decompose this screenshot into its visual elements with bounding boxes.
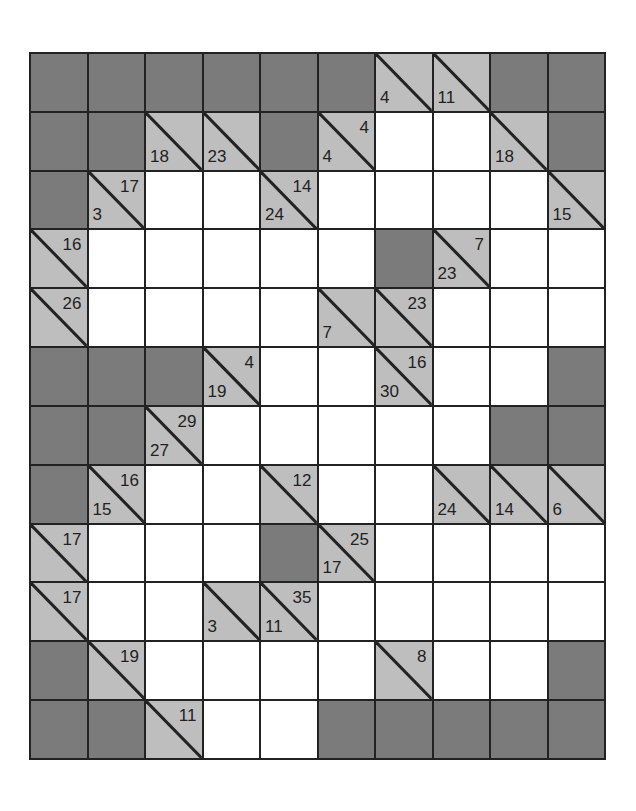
across-sum: 8 [417,648,426,665]
block-cell [89,348,145,405]
entry-cell[interactable] [549,525,605,582]
block-cell [31,407,87,464]
entry-cell[interactable] [319,642,375,699]
entry-cell[interactable] [89,583,145,640]
entry-cell[interactable] [491,583,547,640]
entry-cell[interactable] [434,583,490,640]
clue-cell: 19 [89,642,145,699]
entry-cell[interactable] [261,348,317,405]
clue-cell: 23 [376,289,432,346]
clue-cell: 24 [434,466,490,523]
entry-cell[interactable] [434,289,490,346]
clue-cell: 2517 [319,525,375,582]
entry-cell[interactable] [204,230,260,287]
entry-cell[interactable] [146,642,202,699]
entry-cell[interactable] [204,172,260,229]
entry-cell[interactable] [261,642,317,699]
entry-cell[interactable] [319,230,375,287]
entry-cell[interactable] [261,230,317,287]
clue-cell: 15 [549,172,605,229]
clue-cell: 7 [319,289,375,346]
entry-cell[interactable] [434,407,490,464]
entry-cell[interactable] [204,642,260,699]
entry-cell[interactable] [146,172,202,229]
entry-cell[interactable] [376,466,432,523]
entry-cell[interactable] [319,583,375,640]
block-cell [31,701,87,758]
entry-cell[interactable] [549,230,605,287]
clue-cell: 2927 [146,407,202,464]
block-cell [31,466,87,523]
entry-cell[interactable] [491,348,547,405]
across-sum: 11 [179,707,197,724]
across-sum: 29 [178,413,197,430]
entry-cell[interactable] [204,407,260,464]
entry-cell[interactable] [204,701,260,758]
across-sum: 16 [63,236,82,253]
entry-cell[interactable] [89,289,145,346]
block-cell [261,54,317,111]
block-cell [319,54,375,111]
entry-cell[interactable] [89,230,145,287]
across-sum: 19 [120,648,139,665]
entry-cell[interactable] [319,172,375,229]
entry-cell[interactable] [376,113,432,170]
entry-cell[interactable] [204,289,260,346]
entry-cell[interactable] [204,525,260,582]
down-sum: 14 [495,501,514,518]
block-cell [549,407,605,464]
down-sum: 19 [208,383,227,400]
block-cell [491,701,547,758]
block-cell [261,525,317,582]
across-sum: 7 [475,236,484,253]
entry-cell[interactable] [319,348,375,405]
entry-cell[interactable] [319,466,375,523]
across-sum: 17 [63,531,82,548]
entry-cell[interactable] [376,407,432,464]
block-cell [89,701,145,758]
entry-cell[interactable] [491,172,547,229]
entry-cell[interactable] [434,642,490,699]
entry-cell[interactable] [146,466,202,523]
entry-cell[interactable] [376,172,432,229]
entry-cell[interactable] [376,583,432,640]
entry-cell[interactable] [319,407,375,464]
down-sum: 17 [323,559,342,576]
clue-cell: 14 [491,466,547,523]
clue-cell: 723 [434,230,490,287]
down-sum: 6 [553,501,562,518]
entry-cell[interactable] [491,230,547,287]
clue-cell: 44 [319,113,375,170]
entry-cell[interactable] [261,701,317,758]
down-sum: 7 [323,324,332,341]
clue-cell: 17 [31,583,87,640]
across-sum: 17 [120,178,139,195]
block-cell [31,642,87,699]
entry-cell[interactable] [491,289,547,346]
entry-cell[interactable] [549,583,605,640]
entry-cell[interactable] [261,289,317,346]
clue-cell: 8 [376,642,432,699]
entry-cell[interactable] [491,525,547,582]
entry-cell[interactable] [434,525,490,582]
down-sum: 15 [553,206,572,223]
entry-cell[interactable] [491,642,547,699]
down-sum: 27 [150,442,169,459]
clue-cell: 1424 [261,172,317,229]
entry-cell[interactable] [261,407,317,464]
entry-cell[interactable] [146,583,202,640]
entry-cell[interactable] [146,289,202,346]
down-sum: 4 [323,148,332,165]
entry-cell[interactable] [376,525,432,582]
entry-cell[interactable] [204,466,260,523]
entry-cell[interactable] [549,289,605,346]
entry-cell[interactable] [146,230,202,287]
entry-cell[interactable] [434,172,490,229]
entry-cell[interactable] [89,525,145,582]
entry-cell[interactable] [434,348,490,405]
entry-cell[interactable] [434,113,490,170]
block-cell [31,172,87,229]
clue-cell: 4 [376,54,432,111]
down-sum: 3 [208,618,217,635]
entry-cell[interactable] [146,525,202,582]
